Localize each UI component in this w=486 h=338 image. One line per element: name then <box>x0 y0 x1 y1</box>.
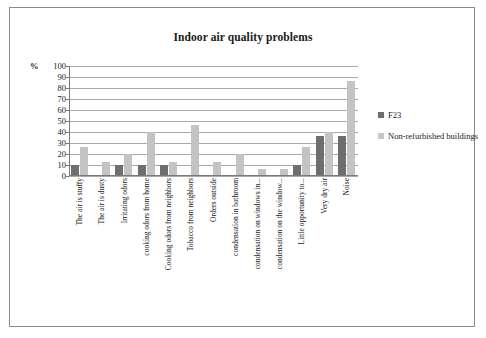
plot-area <box>69 66 358 176</box>
x-category-label-text: Cooking odors from neighbors <box>165 178 173 270</box>
y-tick-label: 70 <box>58 95 67 104</box>
bar <box>325 132 333 176</box>
x-category-label-text: condensation on windows in... <box>254 178 262 269</box>
x-category-label-text: Orders outside <box>210 178 218 222</box>
x-axis-line <box>69 175 358 176</box>
y-tick-label: 40 <box>58 128 67 137</box>
y-tick-label: 90 <box>58 73 67 82</box>
bar-group <box>136 66 158 176</box>
x-category-label-text: Noise <box>343 178 351 196</box>
x-category-label: The air is stuffy <box>73 178 87 288</box>
bar-group <box>314 66 336 176</box>
x-category-label: condensation in bathroom <box>229 178 243 288</box>
x-category-label-text: Little opportunity to... <box>298 178 306 244</box>
x-category-label: Irritating odors <box>118 178 132 288</box>
y-axis-tick-labels: 1009080706050403020100 <box>30 61 66 181</box>
chart-page: Indoor air quality problems % 1009080706… <box>0 0 486 338</box>
bar <box>147 132 155 176</box>
x-category-label-text: Irritating odors <box>121 178 129 223</box>
bar <box>236 154 244 176</box>
x-category-label: cooking odors from home <box>140 178 154 288</box>
x-category-label: Very dry air <box>318 178 332 288</box>
y-tick-label: 10 <box>58 161 67 170</box>
y-tick-label: 20 <box>58 150 67 159</box>
bar-group <box>291 66 313 176</box>
bar-group <box>69 66 91 176</box>
x-category-label: Cooking odors from neighbors <box>162 178 176 288</box>
x-category-label: Little opportunity to... <box>295 178 309 288</box>
x-category-label: condensation on the window... <box>273 178 287 288</box>
y-tick-label: 30 <box>58 139 67 148</box>
x-category-label-text: condensation in bathroom <box>232 178 240 256</box>
x-category-label: Noise <box>340 178 354 288</box>
legend-swatch-icon <box>378 133 384 139</box>
bar-group <box>158 66 180 176</box>
bar <box>213 162 221 176</box>
legend-item: Non-refurbished buildings <box>378 131 478 141</box>
bar <box>80 147 88 176</box>
bar-group <box>336 66 358 176</box>
bar-group <box>202 66 224 176</box>
legend-label: Non-refurbished buildings <box>388 131 478 141</box>
bar-group <box>225 66 247 176</box>
y-tick-label: 80 <box>58 84 67 93</box>
bar <box>347 81 355 176</box>
y-tick-label: 60 <box>58 106 67 115</box>
bar <box>124 154 132 176</box>
bar-group <box>91 66 113 176</box>
bar <box>316 136 324 176</box>
x-category-label: Orders outside <box>207 178 221 288</box>
x-category-label-text: The air is stuffy <box>76 178 84 226</box>
x-category-label-text: condensation on the window... <box>276 178 284 269</box>
bar <box>169 162 177 176</box>
x-category-label: condensation on windows in... <box>251 178 265 288</box>
legend-item: F23 <box>378 110 478 120</box>
bar <box>338 136 346 176</box>
bar <box>191 125 199 176</box>
bar-group <box>269 66 291 176</box>
bar-group <box>247 66 269 176</box>
gridline <box>69 176 358 177</box>
bar-group <box>113 66 135 176</box>
legend-swatch-icon <box>378 112 384 118</box>
chart-legend: F23Non-refurbished buildings <box>378 110 478 152</box>
legend-label: F23 <box>388 110 401 120</box>
x-category-label: Tobacco from neighbors <box>184 178 198 288</box>
x-category-label-text: Tobacco from neighbors <box>187 178 195 251</box>
x-category-label: The air is dusty <box>95 178 109 288</box>
x-category-label-text: Very dry air <box>321 178 329 214</box>
x-axis-category-labels: The air is stuffyThe air is dustyIrritat… <box>69 178 358 288</box>
y-tick-label: 50 <box>58 117 67 126</box>
bar <box>302 147 310 176</box>
chart-title: Indoor air quality problems <box>0 31 486 43</box>
x-category-label-text: cooking odors from home <box>143 178 151 256</box>
y-axis-line <box>69 66 70 176</box>
bar <box>102 162 110 176</box>
bar-group <box>180 66 202 176</box>
y-tick-label: 100 <box>53 62 66 71</box>
x-category-label-text: The air is dusty <box>98 178 106 224</box>
